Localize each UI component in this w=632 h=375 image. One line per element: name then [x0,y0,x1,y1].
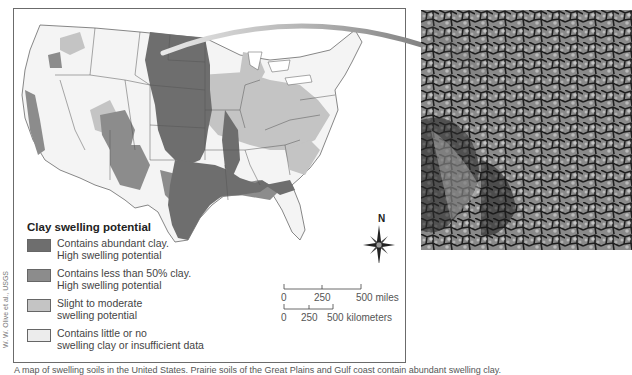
scale-km-500: 500 kilometers [327,312,392,323]
legend-label: Contains little or no [57,327,204,339]
legend-item-little: Contains little or noswelling clay or in… [27,327,227,351]
legend-swatch [27,299,51,312]
legend-label: Contains abundant clay. [57,237,169,249]
scale-km-0: 0 [281,312,287,323]
legend-item-less-than-50: Contains less than 50% clay.High swellin… [27,267,227,291]
scale-miles-500: 500 miles [356,292,399,303]
compass-rose-icon [361,213,397,263]
figure-caption: A map of swelling soils in the United St… [14,365,501,375]
cracked-soil-image [421,10,632,250]
legend-label: High swelling potential [57,249,169,261]
legend-swatch [27,239,51,252]
photo-credit: W. W. Olive et al., USGS [2,271,9,348]
legend-item-abundant: Contains abundant clay.High swelling pot… [27,237,227,261]
legend-label: swelling clay or insufficient data [57,339,204,351]
legend: Clay swelling potential Contains abundan… [27,221,227,357]
legend-label: Contains less than 50% clay. [57,267,191,279]
cracked-clay-photo [421,10,632,250]
scale-km-250: 250 [301,312,318,323]
legend-label: Slight to moderate [57,297,142,309]
legend-label: swelling potential [57,309,142,321]
legend-swatch [27,269,51,282]
scale-miles-250: 250 [314,292,331,303]
scale-miles-0: 0 [281,292,287,303]
legend-item-slight: Slight to moderateswelling potential [27,297,227,321]
legend-swatch [27,329,51,342]
legend-label: High swelling potential [57,279,191,291]
legend-title: Clay swelling potential [27,221,227,233]
